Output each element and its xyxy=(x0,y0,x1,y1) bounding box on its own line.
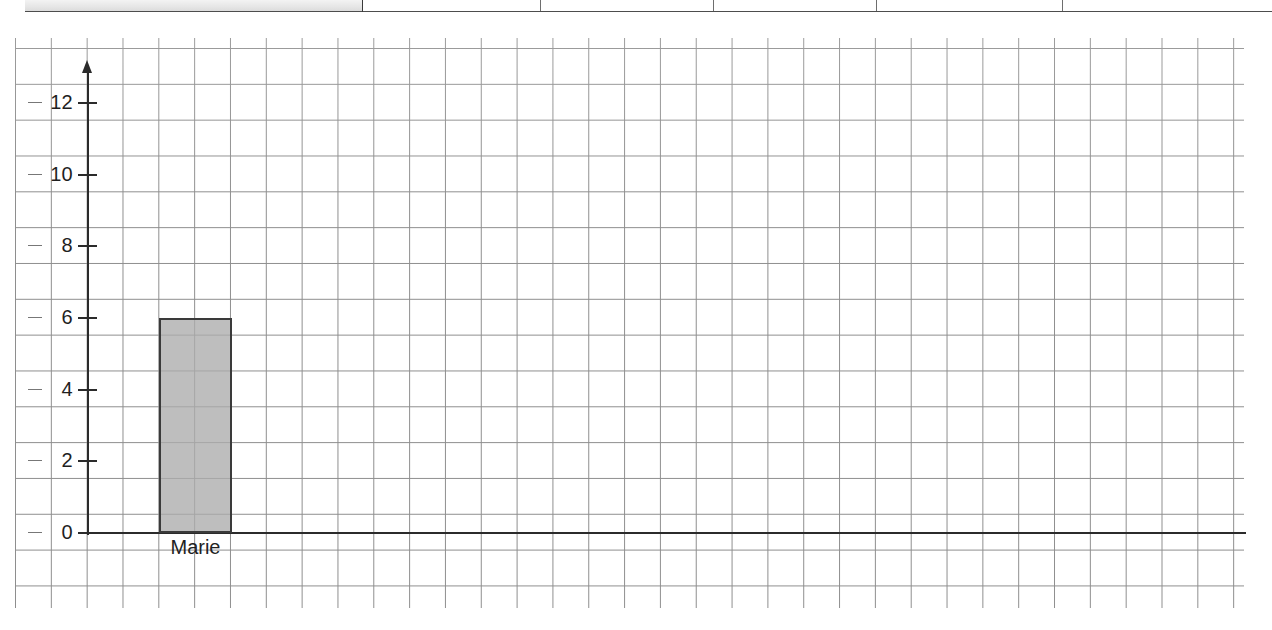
bar-label-marie: Marie xyxy=(159,536,232,558)
y-axis-line xyxy=(87,69,89,535)
y-tick-label: 10 xyxy=(50,163,73,185)
table-divider-5 xyxy=(1062,0,1063,11)
y-tick-mark xyxy=(78,389,97,391)
table-shaded-cell xyxy=(25,0,362,11)
y-tick-dash xyxy=(28,245,42,246)
x-axis-line xyxy=(86,532,1246,534)
cutoff-table-strip xyxy=(0,0,1272,14)
y-tick-mark xyxy=(78,245,97,247)
y-tick-dash xyxy=(28,102,42,103)
table-bottom-border xyxy=(25,11,1272,12)
table-divider-1 xyxy=(362,0,363,12)
table-divider-4 xyxy=(876,0,877,11)
y-tick-mark xyxy=(78,532,97,534)
y-tick-mark xyxy=(78,317,97,319)
y-axis-arrow-icon xyxy=(82,60,92,73)
y-tick-label: 8 xyxy=(62,234,73,256)
y-tick-label: 12 xyxy=(50,91,73,113)
y-tick-dash xyxy=(28,174,42,175)
bar-marie[interactable] xyxy=(159,318,232,533)
y-tick-label: 0 xyxy=(62,521,73,543)
y-tick-dash xyxy=(28,532,42,533)
y-tick-label: 6 xyxy=(62,306,73,328)
y-tick-dash xyxy=(28,460,42,461)
y-tick-mark xyxy=(78,174,97,176)
y-tick-mark xyxy=(78,460,97,462)
y-tick-dash xyxy=(28,317,42,318)
y-tick-label: 4 xyxy=(62,378,73,400)
table-divider-2 xyxy=(540,0,541,11)
y-tick-dash xyxy=(28,389,42,390)
graph-paper-chart: 0 2 4 6 8 10 12 Marie xyxy=(0,24,1272,630)
table-divider-3 xyxy=(713,0,714,11)
y-tick-mark xyxy=(78,102,97,104)
y-tick-label: 2 xyxy=(62,449,73,471)
